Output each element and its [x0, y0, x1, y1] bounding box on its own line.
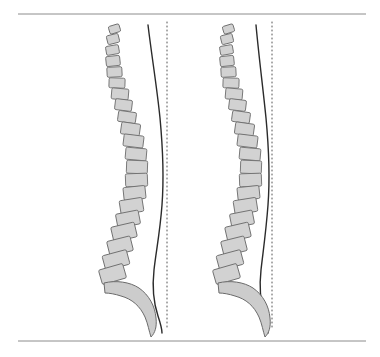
spine-figure — [0, 0, 380, 357]
vertebra-body — [220, 55, 235, 66]
body-contour-line — [148, 25, 163, 333]
vertebra-body — [221, 67, 237, 78]
vertebra-body — [234, 122, 254, 137]
vertebra-body — [220, 33, 234, 45]
vertebra-body — [106, 55, 121, 66]
vertebra-body — [117, 110, 136, 123]
vertebra-body — [123, 134, 144, 148]
vertebra-body — [107, 67, 123, 78]
left-spine — [98, 22, 167, 337]
vertebra-body — [106, 33, 120, 45]
vertebra-body — [225, 88, 243, 100]
vertebra-body — [105, 44, 119, 55]
vertebra-body — [239, 173, 261, 187]
vertebra-body — [120, 122, 140, 137]
vertebra-body — [228, 99, 246, 112]
vertebra-body — [114, 99, 132, 112]
vertebra-body — [222, 24, 235, 35]
vertebra-body — [125, 173, 147, 187]
vertebra-body — [223, 78, 239, 89]
vertebra-body — [240, 160, 261, 174]
vertebra-body — [111, 88, 129, 100]
vertebra-body — [237, 134, 258, 148]
vertebra-body — [126, 160, 147, 174]
sacrum-coccyx — [218, 282, 270, 337]
vertebra-body — [219, 44, 233, 55]
vertebra-body — [231, 110, 250, 123]
vertebra-body — [239, 147, 261, 161]
spine-figure-svg — [0, 0, 380, 357]
sacrum-coccyx — [104, 282, 156, 337]
vertebra-body — [125, 147, 147, 161]
vertebra-body — [108, 24, 121, 35]
right-spine — [212, 22, 272, 337]
vertebra-body — [109, 78, 125, 89]
